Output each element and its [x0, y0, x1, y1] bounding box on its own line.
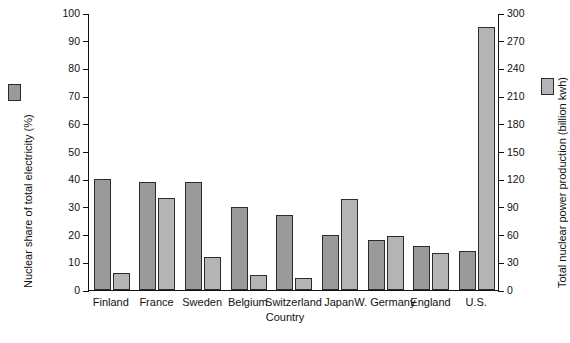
bar-nuclear-share	[276, 215, 293, 290]
tick-label-left-60: 60	[68, 119, 80, 129]
y-axis-title-right: Total nuclear power production (billion …	[556, 77, 568, 288]
bar-nuclear-share	[94, 179, 111, 290]
y-axis-title-left: Nuclear share of total electricity (%)	[22, 114, 34, 288]
bar-nuclear-share	[322, 235, 339, 290]
tick-label-right-180: 180	[507, 119, 525, 129]
tick-label-left-100: 100	[62, 8, 80, 18]
bar-nuclear-share	[368, 240, 385, 290]
bar-nuclear-share	[139, 182, 156, 290]
bar-total-production	[250, 275, 267, 290]
tick-label-left-0: 0	[74, 285, 80, 295]
bar-nuclear-share	[185, 182, 202, 290]
legend-swatch-nuclear-share	[8, 84, 21, 101]
bar-chart: Nuclear share of total electricity (%) T…	[0, 0, 570, 343]
tick-label-right-150: 150	[507, 147, 525, 157]
bar-group	[363, 14, 409, 290]
y-axis-title-left-label: Nuclear share of total electricity	[22, 135, 34, 288]
bar-nuclear-share	[413, 246, 430, 290]
bar-group	[135, 14, 181, 290]
tick-label-left-40: 40	[68, 174, 80, 184]
tick-label-right-60: 60	[507, 230, 519, 240]
x-axis-title: Country	[0, 311, 570, 323]
tick-label-right-30: 30	[507, 257, 519, 267]
bar-total-production	[295, 278, 312, 290]
bar-total-production	[341, 199, 358, 290]
tick-label-right-120: 120	[507, 174, 525, 184]
y-axis-title-right-label: Total nuclear power production	[556, 138, 568, 288]
tick-label-left-30: 30	[68, 202, 80, 212]
tick-mark-left-0	[83, 291, 89, 292]
tick-label-right-210: 210	[507, 91, 525, 101]
bar-total-production	[387, 236, 404, 290]
tick-label-right-240: 240	[507, 63, 525, 73]
tick-label-right-90: 90	[507, 202, 519, 212]
bar-group	[272, 14, 318, 290]
x-axis-tick-label: U.S.	[426, 296, 526, 308]
tick-label-left-50: 50	[68, 147, 80, 157]
y-axis-title-left-unit: (%)	[22, 114, 34, 131]
bar-group	[409, 14, 455, 290]
tick-label-right-270: 270	[507, 36, 525, 46]
tick-label-right-0: 0	[507, 285, 513, 295]
tick-label-right-300: 300	[507, 8, 525, 18]
bar-total-production	[432, 253, 449, 290]
bar-nuclear-share	[459, 251, 476, 290]
bar-group	[180, 14, 226, 290]
bar-total-production	[204, 257, 221, 290]
tick-label-left-90: 90	[68, 36, 80, 46]
bar-group	[226, 14, 272, 290]
bar-nuclear-share	[231, 207, 248, 290]
legend-swatch-total-production	[541, 78, 554, 95]
bar-total-production	[158, 198, 175, 290]
bar-group	[89, 14, 135, 290]
tick-mark-right-0	[498, 291, 504, 292]
y-axis-title-right-unit: (billion kwh)	[556, 77, 568, 135]
bar-total-production	[478, 27, 495, 290]
tick-label-left-80: 80	[68, 63, 80, 73]
tick-label-left-70: 70	[68, 91, 80, 101]
bar-group	[454, 14, 500, 290]
plot-area: 0102030405060708090100030609012015018021…	[88, 14, 499, 291]
bar-group	[317, 14, 363, 290]
tick-label-left-20: 20	[68, 230, 80, 240]
tick-label-left-10: 10	[68, 257, 80, 267]
bar-total-production	[113, 273, 130, 290]
